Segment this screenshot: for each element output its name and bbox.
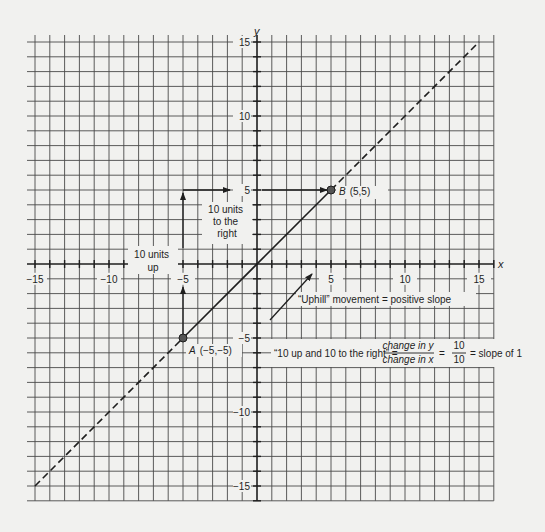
x-axis-label: x	[497, 258, 504, 270]
y-tick-label: 15	[239, 37, 251, 48]
point-b	[327, 186, 335, 194]
x-tick-label: −15	[27, 274, 44, 285]
value-denominator: 10	[453, 354, 465, 365]
uphill-annotation: “Uphill” movement = positive slope	[298, 294, 452, 305]
x-tick-label: −10	[101, 274, 118, 285]
grid-lines	[27, 35, 494, 501]
x-tick-label: −5	[177, 274, 189, 285]
point-a	[179, 334, 187, 342]
y-tick-label: −5	[239, 333, 251, 344]
equation-prefix: “10 up and 10 to the right” =	[274, 348, 398, 359]
x-tick-label: 10	[399, 274, 411, 285]
x-tick-label: 5	[328, 274, 334, 285]
fraction-denominator: change in x	[382, 354, 434, 365]
y-tick-label: −15	[233, 481, 250, 492]
point-a-label: A(−5,−5)	[188, 345, 232, 356]
y-tick-label: 10	[239, 111, 251, 122]
value-numerator: 10	[453, 340, 465, 351]
coordinate-plane: −15−10−55101515105−5−10−15 A(−5,−5) B(5,…	[0, 0, 545, 532]
point-b-label: B(5,5)	[339, 186, 370, 197]
y-axis-label: y	[253, 25, 261, 37]
y-tick-label: −10	[233, 407, 250, 418]
axes	[27, 35, 494, 501]
equals-sign: =	[439, 348, 445, 359]
fraction-numerator: change in y	[382, 340, 434, 351]
x-tick-label: 15	[473, 274, 485, 285]
equation-suffix: = slope of 1	[470, 348, 522, 359]
y-tick-label: 5	[244, 185, 250, 196]
